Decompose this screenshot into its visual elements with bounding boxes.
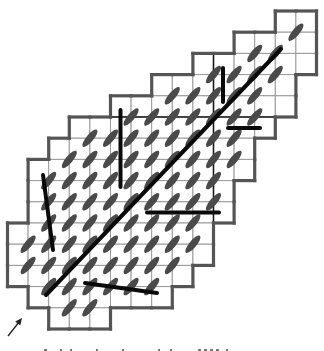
- grid-cell: [296, 53, 317, 74]
- grid-cell: [152, 287, 173, 308]
- grid-cell: [275, 96, 296, 117]
- arrow-head-icon: [15, 318, 22, 325]
- grid-cell: [8, 223, 29, 244]
- grid-cell: [90, 308, 111, 329]
- grid-cell: [49, 138, 70, 159]
- grid-cell: [234, 159, 255, 180]
- grid-cell: [172, 265, 193, 286]
- arrow-shaft: [8, 322, 19, 336]
- grid-cell: [152, 75, 173, 96]
- grid-cell: [234, 32, 255, 53]
- grid-cell: [275, 75, 296, 96]
- grid-cell: [193, 244, 214, 265]
- grid-cell: [296, 32, 317, 53]
- grid-cell: [69, 117, 90, 138]
- diagram-canvas: [0, 0, 324, 351]
- grid-cell: [275, 11, 296, 32]
- leaf-grid-diagram: [0, 0, 324, 351]
- corner-arrow-icon: [8, 318, 22, 336]
- grid-cell: [193, 53, 214, 74]
- grid-cell: [28, 159, 49, 180]
